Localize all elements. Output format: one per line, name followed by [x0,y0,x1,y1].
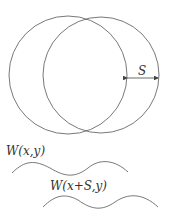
wave1-curve [12,162,128,176]
wave1-label: W(x,y) [6,144,45,158]
shearing-diagram: S W(x,y) W(x+S,y) [0,0,169,219]
wave2-label: W(x+S,y) [50,179,107,193]
wave2-curve [43,196,158,208]
shift-label: S [138,64,146,78]
left-circle [9,16,127,134]
